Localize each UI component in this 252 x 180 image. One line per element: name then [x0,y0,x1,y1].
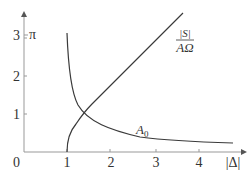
y-tick-2: 2 [13,69,20,84]
x-tick-0: 0 [13,155,20,170]
x-tick-4: 4 [196,155,203,170]
chart: 3 π 2 1 0 1 2 3 4 |Δ| |S| AΩ A0 [0,0,252,180]
label-a0: A0 [135,122,149,139]
label-s-numerator: |S| [179,27,191,39]
series-a0 [67,33,233,143]
series-s-over-a-omega [67,13,183,152]
y-tick-1: 1 [13,107,20,122]
x-tick-3: 3 [153,155,160,170]
y-tick-pi: π [29,27,36,42]
x-axis-label: |Δ| [226,155,241,170]
x-tick-1: 1 [64,155,71,170]
x-tick-2: 2 [108,155,115,170]
y-tick-3: 3 [13,28,20,43]
label-a-omega-denominator: AΩ [175,40,193,55]
